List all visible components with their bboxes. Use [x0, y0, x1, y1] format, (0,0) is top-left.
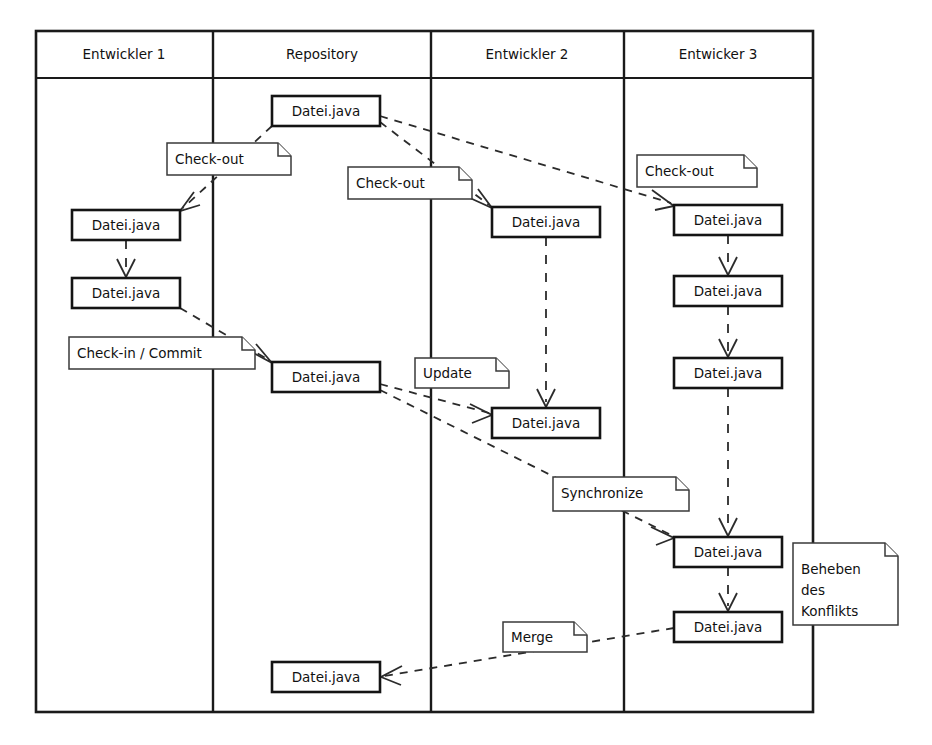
note-checkout-dev3: Check-out	[637, 155, 757, 187]
flow-dev1-edit	[117, 240, 135, 277]
note-checkin-commit: Check-in / Commit	[69, 337, 255, 369]
note-update: Update	[415, 358, 509, 388]
note-checkin-commit-label: Check-in / Commit	[77, 345, 202, 361]
note-update-label: Update	[423, 365, 472, 381]
flow-dev2-hold	[537, 237, 555, 407]
lane-header-entwickler-3: Entwicker 3	[679, 46, 758, 62]
artifact-dev3-resolved: Datei.java	[674, 612, 782, 642]
note-checkout-dev2: Check-out	[348, 167, 472, 199]
note-checkout-dev1: Check-out	[167, 143, 291, 175]
artifact-dev2-updated: Datei.java	[492, 408, 600, 438]
flow-dev3-resolve	[719, 567, 737, 611]
artifact-dev2-checkout-label: Datei.java	[512, 214, 581, 230]
swimlane-diagram-canvas: Entwickler 1 Repository Entwickler 2 Ent…	[0, 0, 932, 745]
artifact-dev2-updated-label: Datei.java	[512, 415, 581, 431]
artifact-dev1-checkout-label: Datei.java	[92, 217, 161, 233]
lane-header-entwickler-1: Entwickler 1	[83, 46, 166, 62]
note-beheben-line-3: Konflikts	[801, 603, 858, 619]
lane-header-entwickler-2: Entwickler 2	[486, 46, 569, 62]
flow-dev3-edit-1	[719, 235, 737, 275]
lane-header-repository: Repository	[286, 46, 358, 62]
artifact-dev3-resolved-label: Datei.java	[694, 619, 763, 635]
note-checkout-dev2-label: Check-out	[356, 175, 425, 191]
artifact-dev3-edit-1: Datei.java	[674, 276, 782, 306]
artifact-dev3-checkout: Datei.java	[674, 205, 782, 235]
artifact-repo-commit-label: Datei.java	[292, 369, 361, 385]
artifact-dev1-edited-label: Datei.java	[92, 285, 161, 301]
artifact-dev3-edit-2-label: Datei.java	[694, 365, 763, 381]
note-beheben-konflikt: Beheben des Konflikts	[793, 543, 898, 625]
artifact-dev1-edited: Datei.java	[72, 278, 180, 308]
artifact-dev3-edit-2: Datei.java	[674, 358, 782, 388]
note-checkout-dev3-label: Check-out	[645, 163, 714, 179]
flow-dev3-to-sync	[719, 388, 737, 536]
artifact-dev1-checkout: Datei.java	[72, 210, 180, 240]
artifact-repo-initial-label: Datei.java	[292, 103, 361, 119]
artifact-repo-merged-label: Datei.java	[292, 669, 361, 685]
flow-dev3-edit-2	[719, 306, 737, 357]
artifact-repo-commit: Datei.java	[272, 362, 380, 392]
artifact-repo-initial: Datei.java	[272, 96, 380, 126]
note-beheben-line-2: des	[801, 582, 825, 598]
note-synchronize: Synchronize	[553, 477, 689, 511]
artifact-dev3-checkout-label: Datei.java	[694, 212, 763, 228]
artifact-dev3-sync: Datei.java	[674, 537, 782, 567]
artifact-dev3-sync-label: Datei.java	[694, 544, 763, 560]
vcs-workflow-diagram: Entwickler 1 Repository Entwickler 2 Ent…	[0, 0, 932, 745]
artifact-dev2-checkout: Datei.java	[492, 207, 600, 237]
note-checkout-dev1-label: Check-out	[175, 151, 244, 167]
artifact-dev3-edit-1-label: Datei.java	[694, 283, 763, 299]
note-synchronize-label: Synchronize	[561, 485, 643, 501]
note-merge: Merge	[503, 622, 587, 652]
artifact-repo-merged: Datei.java	[272, 662, 380, 692]
note-beheben-line-1: Beheben	[801, 561, 861, 577]
note-merge-label: Merge	[511, 629, 553, 645]
